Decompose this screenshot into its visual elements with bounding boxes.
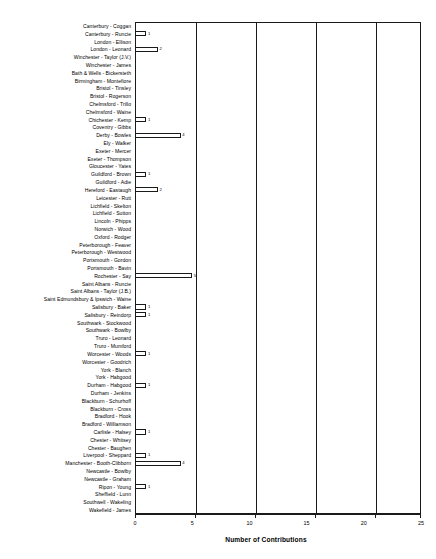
category-label: Wakefield - James bbox=[0, 507, 135, 513]
category-label: Winchester - James bbox=[0, 62, 135, 68]
chart-rows: Canterbury - CogganCanterbury - Runcie1L… bbox=[0, 22, 436, 514]
bar-value-label: 1 bbox=[148, 32, 150, 36]
bar-container bbox=[135, 84, 436, 92]
chart-row: Saint Albans - Runcie bbox=[0, 280, 436, 288]
category-label: York - Habgood bbox=[0, 374, 135, 380]
x-axis bbox=[135, 514, 421, 515]
bar-value-label: 1 bbox=[148, 430, 150, 434]
chart-row: Guildford - Brown1 bbox=[0, 170, 436, 178]
chart-row: Canterbury - Runcie1 bbox=[0, 30, 436, 38]
chart-row: Ripon - Young1 bbox=[0, 483, 436, 491]
category-label: Ripon - Young bbox=[0, 484, 135, 490]
bar-container: 5 bbox=[135, 272, 436, 280]
x-tick-label: 5 bbox=[191, 520, 194, 526]
category-label: Truro - Mumford bbox=[0, 343, 135, 349]
bar-container bbox=[135, 100, 436, 108]
chart-row: Lichfield - Sutton bbox=[0, 209, 436, 217]
chart-row: Coventry - Gibbs bbox=[0, 124, 436, 132]
chart-row: Southwell - Wakeling bbox=[0, 498, 436, 506]
chart-row: London - Leonard2 bbox=[0, 45, 436, 53]
category-label: Saint Edmundsbury & Ipswich - Waine bbox=[0, 296, 135, 302]
bar-container bbox=[135, 397, 436, 405]
category-label: Norwich - Wood bbox=[0, 226, 135, 232]
bar bbox=[135, 484, 146, 489]
category-label: Worcester - Goodrich bbox=[0, 359, 135, 365]
bar-container bbox=[135, 334, 436, 342]
bar-container: 1 bbox=[135, 381, 436, 389]
x-tick-label: 25 bbox=[418, 520, 424, 526]
bar-container: 2 bbox=[135, 45, 436, 53]
bar-value-label: 1 bbox=[148, 313, 150, 317]
category-label: Bristol - Rogerson bbox=[0, 93, 135, 99]
x-tick bbox=[315, 514, 316, 518]
bar-container bbox=[135, 327, 436, 335]
chart-row: Southwark - Stockwood bbox=[0, 319, 436, 327]
chart-row: Liverpool - Sheppard1 bbox=[0, 452, 436, 460]
category-label: Newcastle - Bowlby bbox=[0, 468, 135, 474]
category-label: Southwark - Stockwood bbox=[0, 320, 135, 326]
category-label: London - Ellison bbox=[0, 39, 135, 45]
category-label: Coventry - Gibbs bbox=[0, 124, 135, 130]
bar-container bbox=[135, 412, 436, 420]
chart-row: Gloucester - Yates bbox=[0, 163, 436, 171]
bar-value-label: 1 bbox=[148, 305, 150, 309]
category-label: Saint Albans - Taylor (J.B.) bbox=[0, 288, 135, 294]
bar-container: 1 bbox=[135, 170, 436, 178]
bar-container bbox=[135, 373, 436, 381]
chart-row: Rochester - Say5 bbox=[0, 272, 436, 280]
category-label: Guildford - Adie bbox=[0, 179, 135, 185]
category-label: Southwell - Wakeling bbox=[0, 499, 135, 505]
category-label: Exeter - Mercer bbox=[0, 148, 135, 154]
bar-value-label: 1 bbox=[148, 118, 150, 122]
bar-container bbox=[135, 163, 436, 171]
bar-container bbox=[135, 358, 436, 366]
bar-chart: Canterbury - CogganCanterbury - Runcie1L… bbox=[0, 0, 436, 559]
category-label: Portsmouth - Gordon bbox=[0, 257, 135, 263]
category-label: Bradford - Hook bbox=[0, 413, 135, 419]
bar-container: 4 bbox=[135, 131, 436, 139]
bar-value-label: 1 bbox=[148, 172, 150, 176]
bar-container bbox=[135, 22, 436, 30]
category-label: Lincoln - Phipps bbox=[0, 218, 135, 224]
category-label: Portsmouth - Bavin bbox=[0, 265, 135, 271]
bar-container bbox=[135, 61, 436, 69]
bar-container bbox=[135, 202, 436, 210]
chart-row: Portsmouth - Gordon bbox=[0, 256, 436, 264]
chart-row: Wakefield - James bbox=[0, 506, 436, 514]
chart-row: Leicester - Rutt bbox=[0, 194, 436, 202]
bar-value-label: 2 bbox=[159, 47, 161, 51]
bar-container bbox=[135, 436, 436, 444]
bar-container bbox=[135, 248, 436, 256]
bar-container bbox=[135, 506, 436, 514]
bar-container bbox=[135, 124, 436, 132]
bar-container bbox=[135, 38, 436, 46]
bar-container bbox=[135, 77, 436, 85]
x-tick bbox=[420, 514, 421, 518]
category-label: London - Leonard bbox=[0, 46, 135, 52]
category-label: Oxford - Rodger bbox=[0, 234, 135, 240]
bar-container: 1 bbox=[135, 452, 436, 460]
bar bbox=[135, 172, 146, 177]
chart-row: Winchester - Taylor (J.V.) bbox=[0, 53, 436, 61]
chart-row: Portsmouth - Bavin bbox=[0, 264, 436, 272]
bar bbox=[135, 47, 158, 52]
bar-container: 2 bbox=[135, 186, 436, 194]
bar bbox=[135, 117, 146, 122]
chart-row: Bristol - Rogerson bbox=[0, 92, 436, 100]
bar-container bbox=[135, 342, 436, 350]
category-label: Derby - Bowles bbox=[0, 132, 135, 138]
chart-row: Salisbury - Baker1 bbox=[0, 303, 436, 311]
bar-container bbox=[135, 498, 436, 506]
category-label: Liverpool - Sheppard bbox=[0, 452, 135, 458]
chart-row: Durham - Habgood1 bbox=[0, 381, 436, 389]
chart-row: Bristol - Tinsley bbox=[0, 84, 436, 92]
bar-container bbox=[135, 53, 436, 61]
category-label: Chelmsford - Waine bbox=[0, 109, 135, 115]
chart-row: Worcester - Woods1 bbox=[0, 350, 436, 358]
category-label: Bath & Wells - Bickersteth bbox=[0, 70, 135, 76]
bar-container bbox=[135, 444, 436, 452]
bar-container bbox=[135, 225, 436, 233]
chart-row: Bath & Wells - Bickersteth bbox=[0, 69, 436, 77]
bar-container bbox=[135, 467, 436, 475]
bar bbox=[135, 453, 146, 458]
